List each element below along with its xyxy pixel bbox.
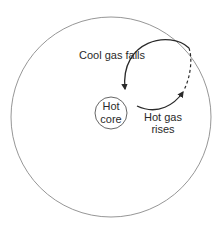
label-hot-gas-rises-line1: Hot gas [144, 111, 182, 123]
cool-gas-falls-arrow [125, 40, 189, 89]
label-core-line2: core [100, 113, 121, 125]
convection-diagram: Hot core Cool gas falls Hot gas rises [0, 0, 222, 227]
label-core-line1: Hot [102, 100, 119, 112]
label-cool-gas-falls: Cool gas falls [79, 49, 146, 61]
hot-gas-rises-arrow [137, 92, 183, 110]
dashed-segment [184, 48, 191, 90]
label-hot-gas-rises-line2: rises [151, 123, 175, 135]
